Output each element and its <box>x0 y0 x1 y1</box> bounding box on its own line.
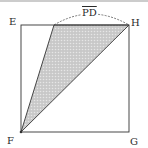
geometry-figure: E H F G PD <box>0 0 148 148</box>
label-G: G <box>130 137 138 147</box>
label-arc-PD: PD <box>81 8 98 18</box>
label-F: F <box>7 136 14 146</box>
label-H: H <box>131 18 140 28</box>
square-diagram <box>0 0 148 148</box>
shaded-triangle <box>21 25 129 132</box>
label-E: E <box>9 17 16 27</box>
vertex-F-dot <box>20 131 23 134</box>
